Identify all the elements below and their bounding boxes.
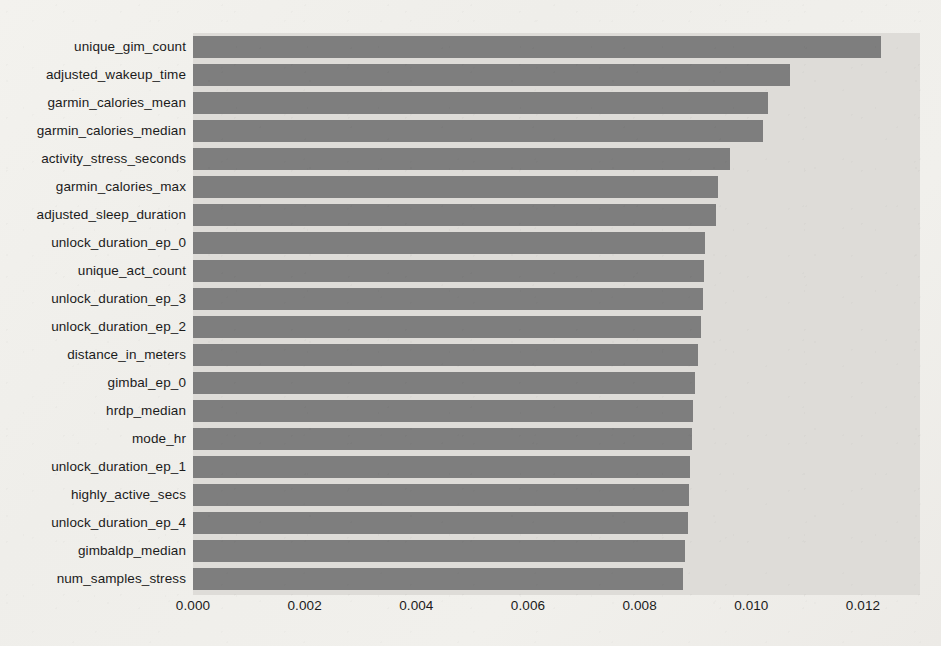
y-axis-tick-label: mode_hr [132, 425, 186, 453]
y-axis-tick-label: adjusted_wakeup_time [46, 61, 186, 89]
x-axis-tick-label: 0.002 [288, 598, 322, 613]
bar [193, 372, 695, 394]
bar [193, 92, 768, 114]
bar-row [193, 145, 920, 173]
bar-row [193, 313, 920, 341]
bar [193, 400, 693, 422]
bar-row [193, 229, 920, 257]
y-axis-tick-label: unlock_duration_ep_4 [51, 509, 186, 537]
bar [193, 36, 881, 58]
bar [193, 456, 690, 478]
bar [193, 64, 790, 86]
bar-row [193, 397, 920, 425]
x-axis-tick-labels: 0.0000.0020.0040.0060.0080.0100.012 [0, 598, 941, 620]
bar-row [193, 341, 920, 369]
bar-row [193, 173, 920, 201]
bar-row [193, 201, 920, 229]
bar [193, 316, 701, 338]
bar [193, 540, 685, 562]
bar [193, 288, 703, 310]
bar [193, 568, 683, 590]
y-axis-tick-labels: unique_gim_countadjusted_wakeup_timegarm… [0, 33, 186, 595]
bar-row [193, 481, 920, 509]
y-axis-tick-label: unlock_duration_ep_1 [51, 453, 186, 481]
y-axis-tick-label: highly_active_secs [71, 481, 186, 509]
bar-row [193, 257, 920, 285]
bar-row [193, 285, 920, 313]
bar-row [193, 565, 920, 593]
y-axis-tick-label: unlock_duration_ep_2 [51, 313, 186, 341]
y-axis-tick-label: garmin_calories_mean [47, 89, 186, 117]
y-axis-tick-label: adjusted_sleep_duration [37, 201, 186, 229]
bar [193, 176, 718, 198]
bar [193, 260, 704, 282]
bar-row [193, 369, 920, 397]
bar-row [193, 537, 920, 565]
y-axis-tick-label: gimbal_ep_0 [108, 369, 186, 397]
bar-row [193, 33, 920, 61]
x-axis-tick-label: 0.004 [399, 598, 433, 613]
bar-row [193, 61, 920, 89]
bar-row [193, 89, 920, 117]
bar-row [193, 117, 920, 145]
y-axis-tick-label: garmin_calories_max [56, 173, 186, 201]
bar [193, 428, 692, 450]
y-axis-tick-label: num_samples_stress [57, 565, 186, 593]
bar [193, 204, 716, 226]
bar-row [193, 509, 920, 537]
x-axis-tick-label: 0.008 [623, 598, 657, 613]
bar [193, 120, 763, 142]
y-axis-tick-label: unlock_duration_ep_3 [51, 285, 186, 313]
y-axis-tick-label: unique_act_count [78, 257, 186, 285]
y-axis-tick-label: garmin_calories_median [37, 117, 186, 145]
bar [193, 512, 688, 534]
x-axis-tick-label: 0.006 [511, 598, 545, 613]
bar [193, 344, 698, 366]
y-axis-tick-label: gimbaldp_median [78, 537, 186, 565]
bar [193, 148, 730, 170]
bar-row [193, 453, 920, 481]
bar-row [193, 425, 920, 453]
x-axis-tick-label: 0.010 [734, 598, 768, 613]
y-axis-tick-label: unique_gim_count [74, 33, 186, 61]
y-axis-tick-label: hrdp_median [106, 397, 186, 425]
x-axis-tick-label: 0.000 [176, 598, 210, 613]
bar [193, 484, 689, 506]
y-axis-tick-label: unlock_duration_ep_0 [51, 229, 186, 257]
y-axis-tick-label: distance_in_meters [67, 341, 186, 369]
x-axis-tick-label: 0.012 [846, 598, 880, 613]
y-axis-tick-label: activity_stress_seconds [41, 145, 186, 173]
feature-importance-bar-chart: unique_gim_countadjusted_wakeup_timegarm… [0, 0, 941, 646]
bar [193, 232, 705, 254]
